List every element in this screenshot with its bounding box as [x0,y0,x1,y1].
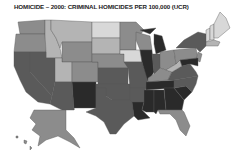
state-WY[interactable] [62,42,92,62]
state-FL[interactable] [158,110,190,136]
state-ND[interactable] [92,22,120,38]
state-WI[interactable] [136,32,152,50]
us-choropleth-map [0,0,242,152]
state-MS[interactable] [142,90,154,112]
state-OR[interactable] [14,34,46,52]
state-ME[interactable] [214,12,230,38]
state-VT[interactable] [206,28,210,42]
state-KS[interactable] [98,68,128,84]
state-NH[interactable] [210,24,214,40]
state-AR[interactable] [130,88,146,102]
state-HI[interactable] [16,136,32,150]
state-CO[interactable] [72,62,98,82]
state-WA[interactable] [18,20,45,34]
state-SD[interactable] [92,38,120,54]
state-NM[interactable] [72,82,96,110]
state-AK[interactable] [30,110,80,148]
